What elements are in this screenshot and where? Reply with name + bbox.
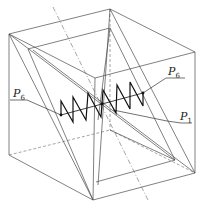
point-start [60, 114, 63, 117]
label-right: P1 [180, 111, 192, 125]
point-end [142, 92, 145, 95]
cube-diagram [0, 0, 206, 211]
label-upper-right: P6 [168, 66, 180, 80]
label-left: P6 [13, 88, 25, 102]
point-center [101, 103, 104, 106]
rotation-axis [53, 7, 148, 200]
